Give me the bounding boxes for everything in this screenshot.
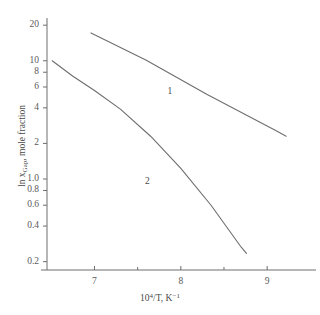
y-tick-label: 0.2	[0, 257, 39, 267]
x-axis-label: 104/T, K−1	[0, 292, 320, 303]
axis-lines	[41, 18, 316, 270]
y-tick-label: 0.6	[0, 200, 39, 210]
y-tick-label: 4	[0, 103, 39, 113]
y-tick-label: 6	[0, 82, 39, 92]
y-tick-label: 2	[0, 138, 39, 148]
y-tick-label: 20	[0, 20, 39, 30]
y-tick-label: 8	[0, 67, 39, 77]
y-tick-label: 1.0	[0, 174, 39, 184]
y-tick-label: 0.4	[0, 221, 39, 231]
series-line-1	[91, 33, 286, 136]
series-line-2	[52, 61, 246, 254]
series-label-2: 2	[145, 176, 150, 186]
chart-figure: ln xGap, mole fraction 104/T, K−1 0.20.4…	[0, 0, 320, 315]
x-tick-label: 7	[74, 277, 114, 287]
chart-plot-area	[0, 0, 320, 315]
y-tick-label: 10	[0, 56, 39, 66]
x-tick-label: 8	[161, 277, 201, 287]
series-label-1: 1	[167, 86, 172, 96]
y-tick-label: 0.8	[0, 185, 39, 195]
x-tick-label: 9	[247, 277, 287, 287]
